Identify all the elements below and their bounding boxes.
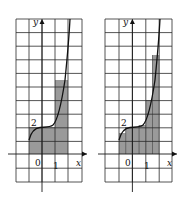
right-y-tick-2: 2 xyxy=(121,118,127,128)
right-graph: y x 0 1 2 xyxy=(98,17,177,192)
left-y-label: y xyxy=(32,17,39,27)
left-origin-label: 0 xyxy=(35,158,41,168)
left-x-arrow-icon xyxy=(82,152,87,157)
right-y-arrow-icon xyxy=(130,19,135,24)
right-rectangles xyxy=(119,55,159,154)
left-graph: y x 0 1 2 xyxy=(8,17,87,192)
left-y-tick-2: 2 xyxy=(31,118,37,128)
right-rect-3 xyxy=(132,127,139,154)
right-grid xyxy=(105,19,172,182)
left-grid xyxy=(16,19,82,182)
right-x-tick-1: 1 xyxy=(144,161,150,171)
right-origin-label: 0 xyxy=(125,158,131,168)
left-y-arrow-icon xyxy=(40,19,45,24)
left-x-tick-1: 1 xyxy=(53,161,59,171)
right-x-arrow-icon xyxy=(172,152,177,157)
right-rect-4 xyxy=(139,125,146,154)
right-x-label: x xyxy=(167,158,172,168)
figure: y x 0 1 2 xyxy=(0,0,182,198)
left-x-label: x xyxy=(76,158,81,168)
right-rect-2 xyxy=(126,127,133,154)
left-rectangles xyxy=(29,80,68,154)
right-y-label: y xyxy=(122,17,129,27)
